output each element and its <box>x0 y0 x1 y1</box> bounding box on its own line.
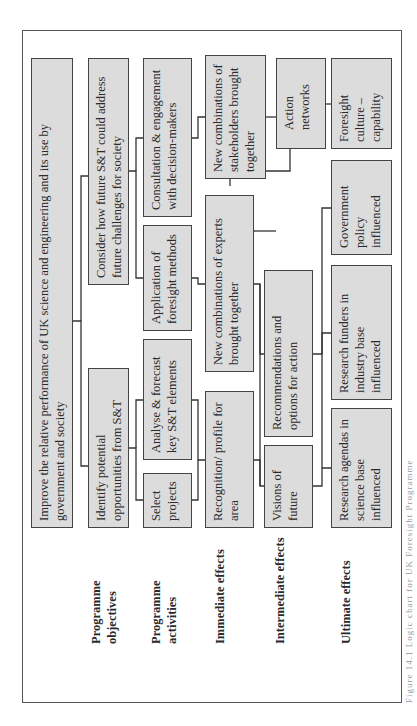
label-programme-objectives: Programme objectives <box>88 544 120 644</box>
box-recommendations: Recommendations and options for action <box>264 270 313 437</box>
box-visions-future: Visions of future <box>264 445 313 528</box>
box-objective-main: Improve the relative performance of UK s… <box>31 58 73 528</box>
box-research-funders: Research funders in industry base influe… <box>331 265 392 400</box>
box-analyse-forecast: Analyse & forecast key S&T elements <box>143 339 192 460</box>
box-new-experts: New combinations of experts brought toge… <box>205 195 254 372</box>
box-new-stakeholders: New combinations of stakeholders brought… <box>205 55 266 179</box>
box-select-projects: Select projects <box>143 473 192 528</box>
figure-caption: Figure 14.1 Logic chart for UK Foresight… <box>404 460 414 703</box>
box-consider-future-challenges: Consider how future S&T could address fu… <box>88 58 129 285</box>
box-foresight-culture: Foresight culture – capability <box>331 58 392 149</box>
label-programme-activities: Programme activities <box>148 544 180 644</box>
rotated-page: Programme objectives Programme activitie… <box>0 0 417 726</box>
box-application-foresight: Application of foresight methods <box>143 225 192 331</box>
box-recognition-profile: Recognition/ profile for area <box>205 391 254 528</box>
box-consultation-engagement: Consultation & engagement with decision-… <box>143 58 192 217</box>
box-action-networks: Action networks <box>276 58 326 149</box>
box-research-agendas: Research agendas in science base influen… <box>331 408 392 528</box>
box-identify-opportunities: Identify potential opportunities from S&… <box>88 368 129 528</box>
box-government-policy: Government policy influenced <box>331 160 392 255</box>
